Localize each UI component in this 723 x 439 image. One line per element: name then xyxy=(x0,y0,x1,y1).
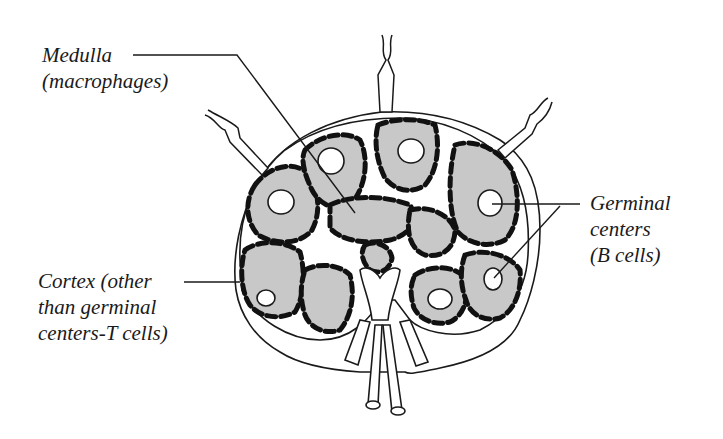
vessel-end xyxy=(366,401,380,409)
afferent-vessel-right xyxy=(498,98,552,158)
cortex-label-line2: than germinal xyxy=(38,294,168,320)
germinal-center xyxy=(257,290,275,306)
germinal-center xyxy=(428,289,452,309)
germinal-centers-label: Germinal centers (B cells) xyxy=(590,190,671,268)
afferent-vessel-top xyxy=(378,35,394,112)
follicle-left-bottom xyxy=(242,243,304,317)
germinal-label-line2: centers xyxy=(590,216,671,242)
germinal-center xyxy=(268,190,294,214)
germinal-center xyxy=(318,148,344,174)
cortex-label-line3: centers-T cells) xyxy=(38,320,168,346)
medulla-label-line2: (macrophages) xyxy=(42,68,168,94)
medulla-cord-1 xyxy=(330,198,414,242)
medulla-label-line1: Medulla xyxy=(42,42,168,68)
cortex-label: Cortex (other than germinal centers-T ce… xyxy=(38,268,168,346)
vessel-end xyxy=(391,407,405,415)
germinal-center xyxy=(478,190,502,216)
medulla-label: Medulla (macrophages) xyxy=(42,42,168,94)
afferent-vessel-left xyxy=(205,110,268,175)
cortex-label-line1: Cortex (other xyxy=(38,268,168,294)
germinal-center xyxy=(398,139,424,163)
germinal-label-line3: (B cells) xyxy=(590,242,671,268)
germinal-label-line1: Germinal xyxy=(590,190,671,216)
follicle-bottom-left-2 xyxy=(301,265,352,331)
